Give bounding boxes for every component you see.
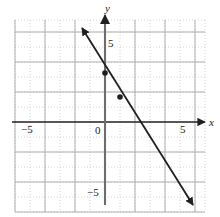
marked-point-second bbox=[117, 94, 123, 100]
y-tick-label--5: −5 bbox=[87, 186, 99, 198]
plotted-line bbox=[82, 28, 193, 205]
origin-label: 0 bbox=[95, 124, 101, 136]
coordinate-plane-figure: −5 0 5 5 −5 y x bbox=[0, 0, 220, 217]
y-tick-label-5: 5 bbox=[108, 37, 114, 49]
x-tick-label-5: 5 bbox=[180, 123, 186, 135]
x-tick-label--5: −5 bbox=[21, 123, 33, 135]
graph-canvas: −5 0 5 5 −5 y x bbox=[0, 0, 220, 217]
marked-point-y-intercept bbox=[102, 70, 108, 76]
y-axis-label: y bbox=[104, 2, 110, 14]
x-axis-label: x bbox=[208, 116, 214, 128]
